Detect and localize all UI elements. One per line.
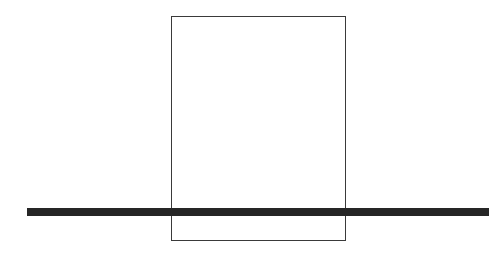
horizontal-bar: [27, 208, 489, 216]
diagram-canvas: [0, 0, 503, 272]
